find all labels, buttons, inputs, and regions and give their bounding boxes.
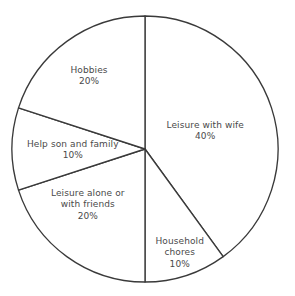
pie-slices-group <box>12 16 278 282</box>
pie-chart: Leisure with wife40%Household chores10%L… <box>0 0 295 296</box>
pie-chart-canvas <box>0 0 295 296</box>
